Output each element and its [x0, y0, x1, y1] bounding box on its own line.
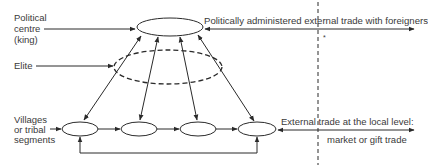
elite-label: Elite: [14, 60, 32, 71]
king-village1-arrow: [84, 36, 141, 120]
village-node-1: [62, 122, 98, 136]
political-centre-label-2: centre: [14, 23, 40, 34]
elite-node: [114, 50, 222, 84]
political-centre-label-3: (king): [14, 34, 38, 45]
political-centre-label-1: Political: [14, 12, 47, 23]
king-node: [137, 18, 203, 36]
top-trade-label: Politically administered external trade …: [204, 15, 428, 26]
village-node-3: [180, 122, 216, 136]
king-village4-arrow: [198, 35, 254, 121]
king-village2-arrow: [140, 37, 158, 120]
asterisk-marker: *: [323, 32, 326, 43]
village-node-4: [238, 122, 276, 136]
villages-label-3: segments: [14, 134, 55, 145]
king-village3-arrow: [180, 37, 197, 120]
village-node-2: [121, 122, 157, 136]
bottom-trade-label-2: market or gift trade: [327, 134, 407, 145]
bottom-trade-label-1: External trade at the local level:: [281, 116, 414, 127]
